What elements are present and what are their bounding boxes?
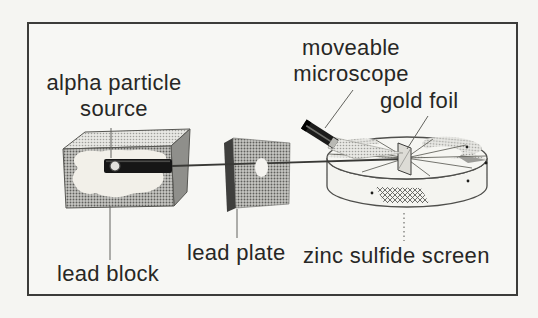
label-lead-block: lead block bbox=[57, 261, 159, 287]
lead-plate-hole bbox=[255, 158, 268, 177]
gold-foil-drawing bbox=[398, 143, 411, 175]
lead-block-cutaway bbox=[73, 150, 167, 197]
label-moveable-microscope: moveable microscope bbox=[285, 35, 417, 86]
lead-block-drawing bbox=[63, 129, 190, 208]
scintillation-patch bbox=[376, 187, 429, 203]
label-zinc-sulfide-screen: zinc sulfide screen bbox=[303, 243, 490, 269]
lead-plate-drawing bbox=[224, 138, 290, 212]
alpha-source-dot bbox=[110, 161, 120, 171]
label-gold-foil: gold foil bbox=[380, 88, 459, 114]
figure-rutherford-apparatus: alpha particle source moveable microscop… bbox=[0, 0, 538, 318]
label-lead-plate: lead plate bbox=[187, 240, 285, 266]
label-alpha-particle-source: alpha particle source bbox=[36, 70, 192, 121]
